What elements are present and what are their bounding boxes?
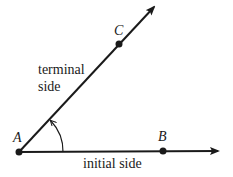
point-c — [116, 41, 123, 48]
initial-side-label: initial side — [83, 157, 142, 171]
initial-side-ray — [19, 151, 218, 152]
angle-arc-arrow — [51, 121, 63, 152]
point-b — [160, 148, 167, 155]
angle-diagram: A B C terminal side initial side — [0, 0, 233, 177]
terminal-side-label-line1: terminal — [38, 63, 85, 77]
label-b: B — [158, 130, 167, 144]
point-a — [16, 149, 23, 156]
terminal-side-label-line2: side — [38, 80, 61, 94]
label-c: C — [114, 24, 123, 38]
label-a: A — [13, 131, 22, 145]
